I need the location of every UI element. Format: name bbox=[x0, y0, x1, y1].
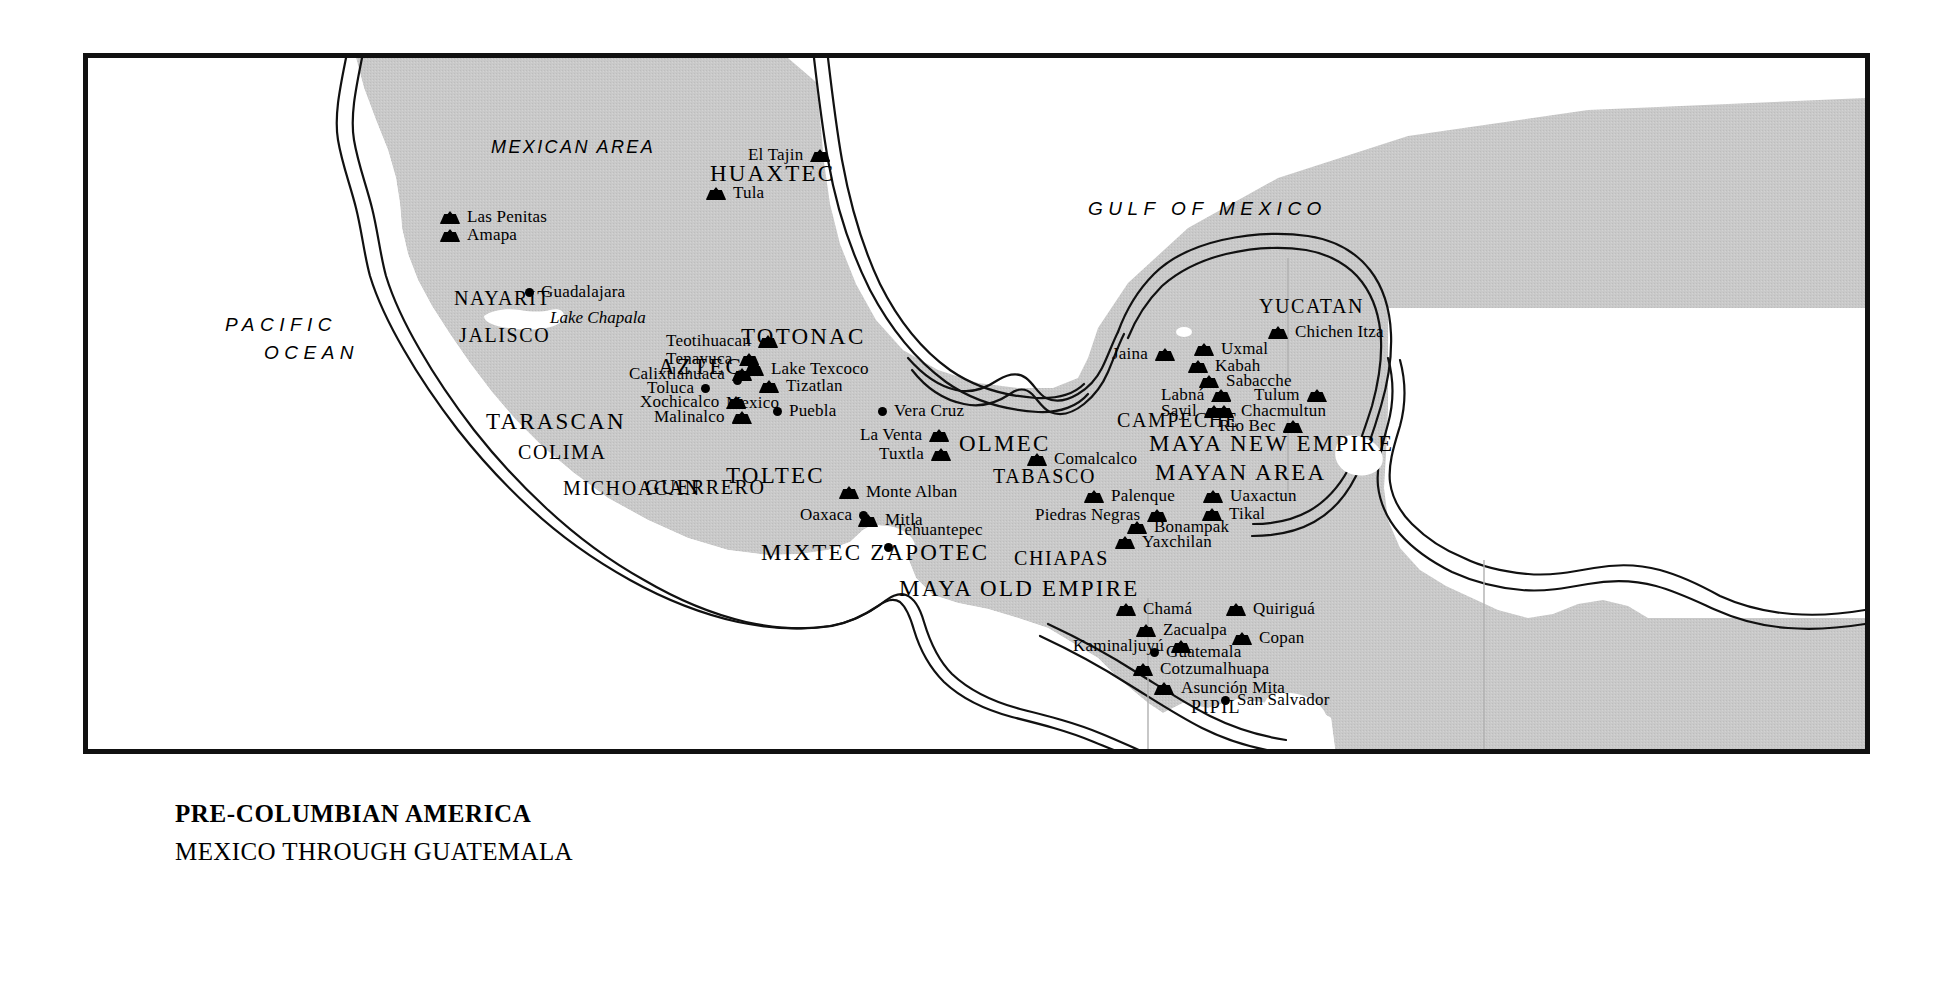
pyramid-icon bbox=[1027, 453, 1047, 466]
site-tuxtla[interactable]: Tuxtla bbox=[879, 444, 951, 464]
site-cotzumalhuapa[interactable]: Cotzumalhuapa bbox=[1133, 659, 1269, 679]
site-monte-alban[interactable]: Monte Alban bbox=[839, 482, 957, 502]
site-label: La Venta bbox=[860, 425, 922, 445]
site-label: Malinalco bbox=[654, 407, 725, 427]
site-san-salvador[interactable]: San Salvador bbox=[1221, 690, 1330, 710]
site-malinalco[interactable]: Malinalco bbox=[654, 407, 752, 427]
pyramid-icon bbox=[440, 229, 460, 242]
pyramid-icon bbox=[1084, 490, 1104, 503]
map-page: PACIFIC OCEAN GULF OF MEXICO MEXICAN ARE… bbox=[0, 0, 1953, 995]
site-label: Uaxactun bbox=[1230, 486, 1297, 506]
pyramid-icon bbox=[858, 514, 878, 527]
site-la-venta[interactable]: La Venta bbox=[860, 425, 949, 445]
site-label: Vera Cruz bbox=[894, 401, 964, 421]
city-dot-icon bbox=[1221, 696, 1230, 705]
pyramid-icon bbox=[1116, 603, 1136, 616]
site-tizatlan[interactable]: Tizatlan bbox=[759, 376, 843, 396]
pyramid-icon bbox=[931, 448, 951, 461]
city-dot-icon bbox=[878, 407, 887, 416]
site-label: San Salvador bbox=[1237, 690, 1330, 710]
pyramid-icon bbox=[706, 187, 726, 200]
site-teotihuacan[interactable]: Teotihuacan bbox=[666, 331, 778, 351]
city-dot-icon bbox=[773, 407, 782, 416]
site-label: Teotihuacan bbox=[666, 331, 751, 351]
pyramid-icon bbox=[759, 380, 779, 393]
title-block: PRE-COLUMBIAN AMERICA MEXICO THROUGH GUA… bbox=[175, 800, 573, 866]
site-label: Chichen Itza bbox=[1295, 322, 1384, 342]
map-frame: PACIFIC OCEAN GULF OF MEXICO MEXICAN ARE… bbox=[83, 53, 1870, 754]
site-label: Tizatlan bbox=[786, 376, 843, 396]
site-label: Piedras Negras bbox=[1035, 505, 1140, 525]
site-copan[interactable]: Copan bbox=[1232, 628, 1304, 648]
site-puebla[interactable]: Puebla bbox=[773, 401, 836, 421]
site-label: Quiriguá bbox=[1253, 599, 1315, 619]
city-dot-icon bbox=[525, 288, 534, 297]
city-dot-icon bbox=[1150, 648, 1159, 657]
pyramid-icon bbox=[1283, 420, 1303, 433]
site-label: Amapa bbox=[467, 225, 517, 245]
site-jaina[interactable]: Jaina bbox=[1112, 344, 1175, 364]
site-las-penitas[interactable]: Las Penitas bbox=[440, 207, 547, 227]
site-palenque[interactable]: Palenque bbox=[1084, 486, 1175, 506]
site-guadalajara[interactable]: Guadalajara bbox=[525, 282, 625, 302]
pyramid-icon bbox=[1136, 624, 1156, 637]
water-caribbean bbox=[1384, 308, 1865, 618]
pyramid-icon bbox=[1154, 682, 1174, 695]
pyramid-icon bbox=[1194, 343, 1214, 356]
site-yaxchilan[interactable]: Yaxchilan bbox=[1115, 532, 1212, 552]
site-mitla[interactable]: Mitla bbox=[858, 510, 923, 530]
site-tula[interactable]: Tula bbox=[706, 183, 764, 203]
map-title-sub: MEXICO THROUGH GUATEMALA bbox=[175, 838, 573, 866]
site-el-tajin[interactable]: El Tajin bbox=[748, 145, 830, 165]
site-rio-bec[interactable]: Rio Bec bbox=[1219, 416, 1303, 436]
pyramid-icon bbox=[732, 411, 752, 424]
site-comalcalco[interactable]: Comalcalco bbox=[1027, 449, 1137, 469]
pyramid-icon bbox=[1133, 663, 1153, 676]
site-label: Cotzumalhuapa bbox=[1160, 659, 1269, 679]
pyramid-icon bbox=[744, 363, 764, 376]
pyramid-icon bbox=[839, 486, 859, 499]
site-mexico-dot[interactable] bbox=[733, 376, 742, 385]
site-label: Comalcalco bbox=[1054, 449, 1137, 469]
lake-yucatan-small bbox=[1176, 327, 1192, 337]
pyramid-icon bbox=[1307, 389, 1327, 402]
pyramid-icon bbox=[1155, 348, 1175, 361]
site-label: El Tajin bbox=[748, 145, 803, 165]
site-label: Rio Bec bbox=[1219, 416, 1276, 436]
site-label: Tula bbox=[733, 183, 764, 203]
pyramid-icon bbox=[929, 429, 949, 442]
site-label: Puebla bbox=[789, 401, 836, 421]
site-label: Copan bbox=[1259, 628, 1304, 648]
site-label: Las Penitas bbox=[467, 207, 547, 227]
pyramid-icon bbox=[1203, 490, 1223, 503]
site-chama[interactable]: Chamá bbox=[1116, 599, 1192, 619]
pyramid-icon bbox=[1226, 603, 1246, 616]
pyramid-icon bbox=[1115, 536, 1135, 549]
pyramid-icon bbox=[1211, 389, 1231, 402]
city-dot-icon bbox=[733, 376, 742, 385]
site-label: Tuxtla bbox=[879, 444, 924, 464]
pyramid-icon bbox=[810, 149, 830, 162]
site-chichen-itza[interactable]: Chichen Itza bbox=[1268, 322, 1384, 342]
site-label: Palenque bbox=[1111, 486, 1175, 506]
site-label: Tikal bbox=[1229, 504, 1265, 524]
site-quirigua[interactable]: Quiriguá bbox=[1226, 599, 1315, 619]
site-uaxactun[interactable]: Uaxactun bbox=[1203, 486, 1297, 506]
site-label: Sayil bbox=[1161, 401, 1197, 421]
site-label: Oaxaca bbox=[800, 505, 852, 525]
site-label: Mitla bbox=[885, 510, 923, 530]
site-amapa[interactable]: Amapa bbox=[440, 225, 517, 245]
site-label: Yaxchilan bbox=[1142, 532, 1212, 552]
map-canvas: PACIFIC OCEAN GULF OF MEXICO MEXICAN ARE… bbox=[88, 58, 1865, 749]
site-tehuantepec-dot[interactable] bbox=[884, 543, 893, 552]
site-label: Chamá bbox=[1143, 599, 1192, 619]
pyramid-icon bbox=[758, 335, 778, 348]
map-title-main: PRE-COLUMBIAN AMERICA bbox=[175, 800, 573, 828]
city-dot-icon bbox=[884, 543, 893, 552]
site-label: Monte Alban bbox=[866, 482, 957, 502]
site-vera-cruz[interactable]: Vera Cruz bbox=[878, 401, 964, 421]
pyramid-icon bbox=[1268, 326, 1288, 339]
pyramid-icon bbox=[440, 211, 460, 224]
site-label: Guadalajara bbox=[541, 282, 625, 302]
landmass-layer bbox=[88, 58, 1865, 749]
